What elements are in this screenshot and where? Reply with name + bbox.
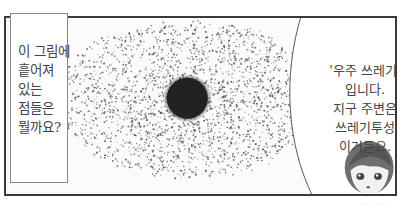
speech-line: 이거든요.: [326, 137, 397, 156]
caption-box: 이 그림에 흩어져 있는 점들은 뭘까요?: [10, 13, 68, 183]
caption-line: 있는: [18, 80, 67, 99]
caption-line: 점들은: [18, 99, 67, 118]
speech-line: 지구 주변은: [326, 99, 397, 118]
credit-text: ····· ·····: [362, 201, 390, 207]
caption-line: 뭘까요?: [18, 118, 67, 137]
speech-line: 입니다.: [326, 80, 397, 99]
caption-line: 이 그림에: [18, 42, 67, 61]
speech-bubble: '우주 쓰레기' 입니다. 지구 주변은 쓰레기투성 이거든요.: [326, 61, 397, 156]
speech-line: '우주 쓰레기': [326, 61, 397, 80]
caption-line: 흩어져: [18, 61, 67, 80]
speech-line: 쓰레기투성: [326, 118, 397, 137]
